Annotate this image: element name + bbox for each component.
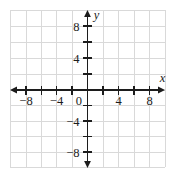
y-tick-label-pos-8: 8 (73, 20, 79, 34)
y-tick-label-neg-8: −8 (66, 146, 79, 160)
coordinate-plane-figure: −8 −4 4 8 8 4 −4 −8 0 x y (0, 0, 174, 177)
x-tick-label-pos-4: 4 (115, 94, 122, 108)
y-tick-label-neg-4: −4 (66, 115, 80, 129)
coordinate-plane-svg: −8 −4 4 8 8 4 −4 −8 0 x y (0, 0, 174, 177)
x-tick-label-neg-4: −4 (50, 94, 64, 108)
origin-label: 0 (76, 94, 82, 108)
y-tick-label-pos-4: 4 (73, 52, 80, 66)
x-axis-label: x (159, 71, 166, 85)
x-tick-label-pos-8: 8 (146, 94, 152, 108)
y-axis-label: y (92, 8, 100, 22)
x-tick-label-neg-8: −8 (19, 94, 32, 108)
